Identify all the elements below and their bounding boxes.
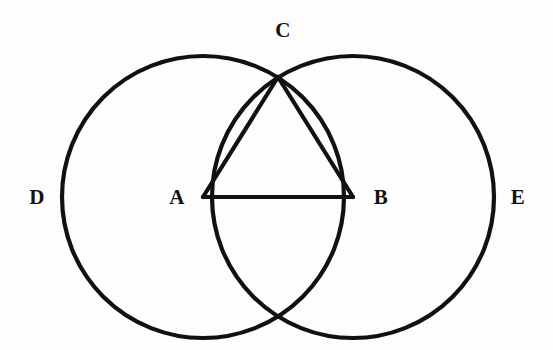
geometry-figure: A B C D E xyxy=(0,0,553,350)
label-point-c: C xyxy=(275,20,291,41)
label-circle-d: D xyxy=(29,187,45,208)
segment-ac xyxy=(203,77,278,197)
figure-canvas xyxy=(0,0,553,350)
segment-bc xyxy=(278,77,353,197)
label-circle-e: E xyxy=(511,187,526,208)
label-point-a: A xyxy=(169,187,185,208)
label-point-b: B xyxy=(374,187,389,208)
